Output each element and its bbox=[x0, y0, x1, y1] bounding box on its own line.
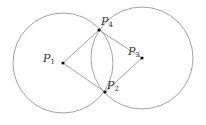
label-p4-sub: 4 bbox=[108, 21, 112, 29]
label-p1-sub: 1 bbox=[50, 58, 54, 66]
point-p3 bbox=[140, 56, 143, 59]
geometry-diagram: P1 P4 P3 P2 bbox=[0, 0, 206, 125]
segment-p1-p4 bbox=[63, 30, 99, 63]
label-p2: P2 bbox=[107, 80, 119, 93]
label-p4: P4 bbox=[101, 16, 113, 29]
point-p1 bbox=[61, 61, 64, 64]
label-p1: P1 bbox=[43, 53, 55, 66]
segment-p2-p1 bbox=[63, 63, 105, 92]
label-p3-sub: 3 bbox=[135, 51, 139, 59]
label-p2-sub: 2 bbox=[114, 85, 118, 93]
label-p3: P3 bbox=[128, 46, 140, 59]
